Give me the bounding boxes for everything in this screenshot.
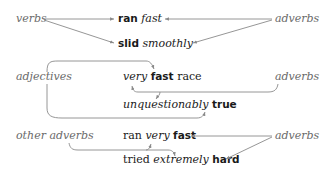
phrase-ran-fast: ran fast bbox=[118, 12, 163, 25]
modification-diagram: verbs adverbs ran fast slid smoothly adj… bbox=[0, 0, 326, 175]
phrase-ran-very-fast: ran very fast bbox=[123, 129, 196, 142]
phrase-unquestionably-true: unquestionably true bbox=[123, 98, 237, 111]
phrase-slid-smoothly: slid smoothly bbox=[118, 37, 194, 50]
label-adjectives: adjectives bbox=[16, 70, 72, 83]
arrow-adverbs-to-very bbox=[132, 84, 278, 92]
group-adjectives: adjectives adverbs very fast race unques… bbox=[16, 61, 320, 118]
label-adverbs-3: adverbs bbox=[275, 129, 320, 142]
label-verbs: verbs bbox=[16, 12, 47, 25]
label-adverbs-2: adverbs bbox=[275, 70, 320, 83]
label-adverbs-1: adverbs bbox=[275, 12, 320, 25]
arrow-other-adverbs-to-very bbox=[69, 143, 151, 150]
arrow-adverbs-to-smoothly bbox=[193, 20, 272, 43]
phrase-tried-extremely-hard: tried extremely hard bbox=[123, 153, 240, 166]
group-verbs: verbs adverbs ran fast slid smoothly bbox=[16, 12, 320, 50]
group-other-adverbs: other adverbs adverbs ran very fast trie… bbox=[16, 129, 320, 166]
arrow-adverbs-to-hard bbox=[226, 137, 272, 159]
phrase-very-fast-race: very fast race bbox=[123, 70, 202, 83]
arrow-verbs-to-slid bbox=[44, 20, 114, 43]
label-other-adverbs: other adverbs bbox=[16, 129, 94, 142]
